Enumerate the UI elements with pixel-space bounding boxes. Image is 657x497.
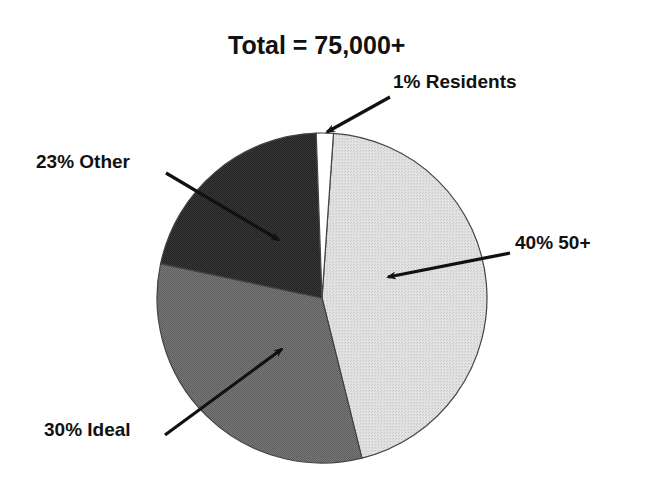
label-ideal: 30% Ideal [44,419,131,440]
label-fifty-plus: 40% 50+ [515,232,591,253]
arrow-residents [327,97,390,132]
label-residents: 1% Residents [393,71,517,92]
pie [157,133,487,463]
chart-title: Total = 75,000+ [228,31,405,59]
pie-chart: Total = 75,000+ 1% Residents 23% Other 4… [0,0,657,497]
label-other: 23% Other [36,151,131,172]
